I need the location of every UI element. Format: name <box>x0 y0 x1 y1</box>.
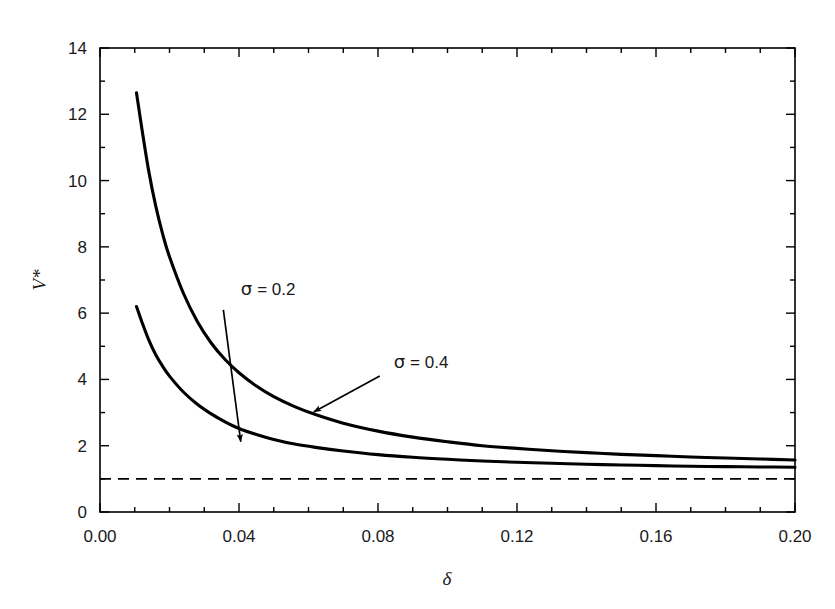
x-tick-label: 0.20 <box>778 527 811 546</box>
y-tick-label: 2 <box>78 437 87 456</box>
x-axis-title: δ <box>443 568 453 589</box>
x-tick-label: 0.04 <box>222 527 255 546</box>
annotation-value: = 0.4 <box>410 353 448 372</box>
y-tick-label: 6 <box>78 304 87 323</box>
annotation-value: = 0.2 <box>257 280 295 299</box>
y-tick-label: 4 <box>78 370 87 389</box>
annotation-label-sigma-0-2: σ= 0.2 <box>241 278 296 299</box>
y-tick-label: 8 <box>78 238 87 257</box>
x-tick-label: 0.00 <box>83 527 116 546</box>
sigma-symbol: σ <box>394 351 405 372</box>
y-axis-title-text: V* <box>29 269 50 291</box>
y-axis-tick-labels: 02468101214 <box>68 39 87 522</box>
x-axis-tick-labels: 0.000.040.080.120.160.20 <box>83 527 811 546</box>
x-tick-label: 0.12 <box>500 527 533 546</box>
y-tick-label: 10 <box>68 172 87 191</box>
y-axis-title: V* <box>29 269 50 291</box>
y-tick-label: 12 <box>68 105 87 124</box>
annotation-label-sigma-0-4: σ= 0.4 <box>394 351 449 372</box>
y-tick-label: 0 <box>78 503 87 522</box>
x-tick-label: 0.16 <box>639 527 672 546</box>
y-tick-label: 14 <box>68 39 87 58</box>
partial-caption-text <box>104 0 744 5</box>
x-tick-label: 0.08 <box>361 527 394 546</box>
annotation-arrow-sigma-0-4 <box>314 376 380 412</box>
chart-plot: 0.000.040.080.120.160.20 02468101214 σ= … <box>0 0 835 609</box>
sigma-symbol: σ <box>241 278 252 299</box>
figure-container: 0.000.040.080.120.160.20 02468101214 σ= … <box>0 0 835 609</box>
